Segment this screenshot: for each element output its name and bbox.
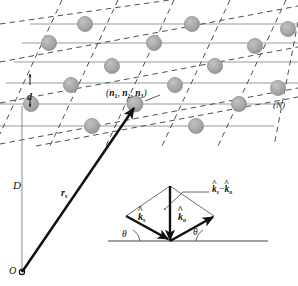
ko-inset-hat-group: ^k [178, 212, 183, 222]
position-vector-label: rs [61, 188, 67, 199]
ko-sub: o [229, 189, 232, 195]
ko-hat-group: ^k [224, 185, 229, 195]
ks-inset-hat-icon: ^ [138, 206, 144, 216]
ks-inset-hat-group: ^k [138, 212, 143, 222]
site-index-label: (n1, n2, n3) [106, 89, 147, 100]
ks-inset-sub: s [143, 216, 145, 223]
incident-unit-vector-label: ^ko [178, 212, 186, 223]
origin-label: O [9, 266, 16, 276]
figure-root: d D (N) (n1, n2, n3) rs O ^ks−^ko ^ks ^k… [0, 0, 298, 286]
lattice-spacing-label: d [27, 92, 32, 102]
ks-hat-icon: ^ [212, 179, 217, 188]
ko-inset-sub: o [183, 216, 186, 223]
position-vector-sub: s [65, 192, 67, 199]
scattered-unit-vector-label: ^ks [138, 212, 145, 223]
ks-hat-group: ^k [212, 185, 217, 195]
angle-label-left: θ [122, 230, 127, 240]
scattering-vector-label: ^ks−^ko [212, 185, 232, 196]
lattice-plane-count-label: (N) [273, 101, 285, 110]
lattice-distance-label: D [13, 180, 21, 191]
ko-inset-hat-icon: ^ [178, 206, 184, 216]
lattice-scattering-diagram [0, 0, 298, 286]
site-index-close: ) [143, 88, 146, 98]
angle-label-right: θ [193, 228, 198, 238]
ko-hat-icon: ^ [224, 179, 229, 188]
